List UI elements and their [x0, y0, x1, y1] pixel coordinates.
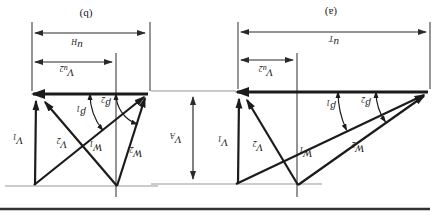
label-w1-b: W1 — [89, 139, 102, 153]
label-w1-b-sub: 1 — [89, 139, 93, 148]
label-uh: uH — [71, 37, 82, 51]
label-beta2-a-main: β — [365, 98, 370, 110]
label-w1-a-sub: 1 — [299, 145, 303, 154]
label-uh-main: u — [77, 40, 83, 52]
label-ut: uT — [329, 34, 339, 48]
label-beta2-a-sub: 2 — [361, 95, 365, 104]
label-v2-a: V2 — [253, 139, 264, 153]
label-beta1-a-main: β — [330, 101, 335, 113]
label-w2-b-main: W — [133, 148, 142, 160]
panel-b-vector-v1 — [35, 101, 36, 185]
label-v1-a: V1 — [218, 134, 229, 148]
label-va: VA — [170, 131, 182, 145]
label-v2-b-sub: 2 — [57, 136, 61, 145]
panel-a-caption: (a) — [325, 7, 337, 18]
label-w2-a: W2 — [351, 140, 364, 154]
label-beta2-b-sub: 2 — [101, 95, 105, 104]
label-beta2-a: β2 — [361, 95, 370, 109]
label-v2-b-main: V — [61, 139, 68, 151]
panel-a-beta1-arc — [338, 92, 347, 130]
label-w1-a: W1 — [299, 145, 312, 159]
label-beta1-b-sub: 1 — [76, 104, 80, 113]
label-w2-b-sub: 2 — [129, 145, 133, 154]
label-v1-b-main: V — [17, 135, 24, 147]
panel-b-caption-text: (b) — [80, 9, 93, 21]
label-v2-a-sub: 2 — [253, 139, 257, 148]
label-vu2-b-main: V — [68, 67, 75, 79]
label-v2-a-main: V — [257, 142, 264, 154]
label-beta1-b-main: β — [80, 107, 85, 119]
label-v1-a-main: V — [222, 137, 229, 149]
label-ut-sub: T — [329, 34, 333, 43]
label-w2-a-sub: 2 — [351, 140, 355, 149]
label-beta1-a-sub: 1 — [326, 98, 330, 107]
velocity-diagram-svg — [0, 0, 441, 215]
label-w2-b: W2 — [129, 145, 142, 159]
label-v1-a-sub: 1 — [218, 134, 222, 143]
panel-b-beta2-arc — [116, 94, 137, 124]
label-va-main: V — [175, 134, 182, 146]
label-vu2-a: Vu2 — [259, 64, 274, 78]
label-beta1-b: β1 — [76, 104, 85, 118]
label-beta1-a: β1 — [326, 98, 335, 112]
label-v2-b: V2 — [57, 136, 68, 150]
label-va-sub: A — [170, 131, 175, 140]
label-uh-sub: H — [71, 37, 77, 46]
label-vu2-a-main: V — [267, 67, 274, 79]
label-ut-main: u — [333, 37, 339, 49]
label-vu2-b-sub: u2 — [60, 64, 68, 73]
label-beta2-b: β2 — [101, 95, 110, 109]
panel-a-vector-v1 — [238, 99, 239, 184]
label-w1-a-main: W — [303, 148, 312, 160]
label-w2-a-main: W — [355, 143, 364, 155]
label-beta2-b-main: β — [105, 98, 110, 110]
label-v1-b-sub: 1 — [13, 132, 17, 141]
label-v1-b: V1 — [13, 132, 24, 146]
label-vu2-a-sub: u2 — [259, 64, 267, 73]
figure-canvas: (b) uH Vu2 V1 V2 W1 W2 β1 β2 VA (a) uT V… — [0, 0, 441, 215]
label-vu2-b: Vu2 — [60, 64, 75, 78]
panel-b-caption: (b) — [80, 9, 93, 20]
label-w1-b-main: W — [93, 142, 102, 154]
panel-a-caption-text: (a) — [325, 7, 337, 19]
